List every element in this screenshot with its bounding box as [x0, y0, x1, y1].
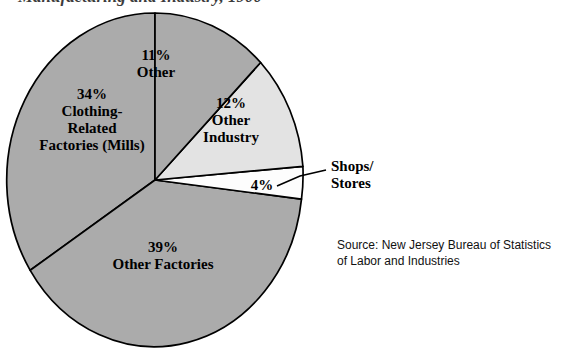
source-note-line-1: Source: New Jersey Bureau of Statistics	[337, 238, 557, 254]
slice-label-shops-stores-name-1: Shops/	[331, 158, 374, 175]
slice-label-clothing-name-1: Clothing-	[39, 103, 144, 120]
slice-label-clothing-name-3: Factories (Mills)	[39, 137, 144, 154]
slice-label-clothing: 34% Clothing- Related Factories (Mills)	[39, 86, 144, 154]
slice-label-other-industry-name-1: Other	[203, 112, 259, 129]
slice-label-clothing-name-2: Related	[39, 120, 144, 137]
slice-label-other-factories-name: Other Factories	[113, 256, 214, 273]
slice-label-other-industry: 12% Other Industry	[203, 95, 259, 146]
source-note-line-2: of Labor and Industries	[337, 254, 557, 270]
slice-label-other-pct: 11%	[137, 47, 175, 64]
slice-label-shops-stores-name: Shops/ Stores	[331, 158, 374, 192]
pie-chart-graphic	[0, 0, 564, 355]
slice-label-other-name: Other	[137, 64, 175, 81]
slice-label-other: 11% Other	[137, 47, 175, 81]
slice-label-other-industry-name-2: Industry	[203, 129, 259, 146]
slice-label-other-industry-pct: 12%	[203, 95, 259, 112]
pie-chart-figure: Manufacturing and Industry, 1900 11% Oth…	[0, 0, 564, 355]
slice-label-shops-stores-name-2: Stores	[331, 175, 374, 192]
slice-label-other-factories: 39% Other Factories	[113, 239, 214, 273]
slice-label-clothing-pct: 34%	[39, 86, 144, 103]
slice-label-other-factories-pct: 39%	[113, 239, 214, 256]
source-note: Source: New Jersey Bureau of Statistics …	[337, 238, 557, 270]
slice-label-shops-stores-pct: 4%	[251, 177, 274, 194]
